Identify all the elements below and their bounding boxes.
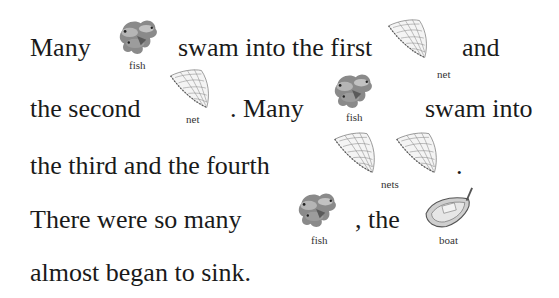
- fish-icon: [293, 187, 341, 233]
- text-segment: the second: [30, 94, 140, 124]
- fish-icon: [330, 68, 376, 114]
- picture-caption: fish: [129, 59, 146, 71]
- net-icon: [394, 128, 440, 178]
- picture-caption: net: [186, 113, 199, 125]
- text-segment: almost began to sink.: [30, 258, 251, 288]
- net-icon: [332, 128, 378, 178]
- text-segment: .: [456, 151, 463, 181]
- text-segment: swam into the first: [178, 33, 372, 63]
- text-segment: and: [462, 33, 500, 63]
- net-icon: [386, 14, 430, 64]
- text-segment: . Many: [230, 94, 304, 124]
- picture-caption: net: [437, 68, 450, 80]
- fish-icon: [115, 14, 161, 60]
- text-segment: There were so many: [30, 205, 242, 235]
- picture-caption: nets: [381, 178, 399, 190]
- text-segment: , the: [355, 205, 400, 235]
- boat-icon: [422, 186, 478, 232]
- net-icon: [168, 64, 212, 114]
- picture-caption: fish: [346, 111, 363, 123]
- picture-caption: boat: [439, 234, 458, 246]
- text-segment: the third and the fourth: [30, 151, 270, 181]
- picture-caption: fish: [311, 234, 328, 246]
- text-segment: Many: [30, 33, 91, 63]
- text-segment: swam into: [425, 94, 533, 124]
